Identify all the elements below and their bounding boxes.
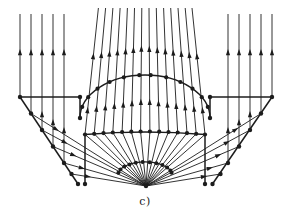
arrowhead-icon (183, 104, 188, 110)
flow-line (131, 8, 134, 132)
flow-line (104, 8, 113, 133)
arrowhead-icon (187, 52, 192, 59)
arrowhead-icon (226, 127, 230, 133)
node-dot (248, 128, 252, 132)
arrowhead-icon (123, 48, 127, 54)
arrowhead-icon (179, 50, 184, 56)
node-dot (134, 161, 138, 165)
node-dot (170, 171, 174, 175)
figure-caption-label: c) (0, 195, 290, 208)
node-dot (137, 73, 141, 77)
flow-line (85, 8, 98, 135)
node-dot (69, 172, 73, 176)
node-dot (164, 75, 168, 79)
node-dot (18, 95, 22, 99)
arrowhead-icon (139, 46, 143, 52)
node-dot (206, 105, 210, 109)
flow-line (31, 114, 146, 187)
arrowhead-icon (130, 100, 134, 106)
arrowhead-icon (94, 105, 99, 112)
arrowhead-icon (40, 49, 44, 55)
arrowhead-icon (192, 105, 197, 112)
structure-edge (20, 97, 78, 184)
arrowhead-icon (206, 165, 213, 171)
node-dot (141, 160, 145, 164)
arrowhead-icon (18, 49, 22, 55)
node-dot (203, 182, 207, 186)
node-dot (139, 129, 143, 133)
node-dot (190, 87, 194, 91)
arrowhead-icon (232, 126, 239, 133)
arrowhead-icon (51, 49, 55, 55)
node-dot (83, 182, 87, 186)
node-dot (176, 130, 180, 134)
node-dot (29, 111, 33, 115)
arrowhead-icon (62, 49, 66, 55)
flow-line (185, 8, 196, 134)
node-dot (218, 172, 222, 176)
arrowhead-icon (163, 48, 167, 54)
node-dot (208, 116, 212, 120)
node-dot (210, 182, 214, 186)
node-dot (108, 80, 112, 84)
arrowhead-icon (139, 99, 143, 105)
arrowhead-icon (121, 101, 125, 107)
arrowhead-icon (165, 101, 169, 107)
arrowhead-icon (237, 119, 241, 125)
flow-line (146, 114, 261, 187)
node-dot (111, 130, 115, 134)
node-dot (194, 132, 198, 136)
node-dot (51, 144, 55, 148)
node-dot (101, 131, 105, 135)
arrowhead-icon (248, 111, 252, 117)
node-dot (62, 161, 66, 165)
node-dot (185, 131, 189, 135)
arrowhead-icon (200, 107, 205, 114)
node-dot (120, 130, 124, 134)
arrowhead-icon (215, 152, 222, 158)
node-dot (200, 95, 204, 99)
node-dot (40, 128, 44, 132)
arrowhead-icon (171, 49, 176, 55)
node-dot (92, 132, 96, 136)
arrowhead-icon (147, 46, 151, 52)
node-dot (157, 130, 161, 134)
node-dot (148, 160, 152, 164)
node-dot (144, 184, 148, 188)
arrowhead-icon (103, 104, 108, 110)
flow-line (122, 132, 146, 186)
arrowhead-icon (226, 49, 230, 55)
node-dot (237, 144, 241, 148)
node-dot (226, 161, 230, 165)
flow-line (113, 8, 120, 133)
arrowhead-icon (99, 52, 104, 59)
flow-line (146, 134, 196, 186)
node-dot (166, 130, 170, 134)
node-dot (160, 163, 164, 167)
node-dot (154, 161, 158, 165)
arrowhead-icon (51, 119, 55, 125)
node-dot (208, 95, 212, 99)
node-dot (149, 73, 153, 77)
arrowhead-icon (195, 53, 200, 60)
node-dot (128, 162, 132, 166)
arrowhead-icon (237, 49, 241, 55)
structure-edge (213, 97, 273, 184)
node-dot (95, 87, 99, 91)
node-dot (119, 168, 123, 172)
node-dot (122, 75, 126, 79)
node-dot (178, 80, 182, 84)
curve (80, 75, 210, 118)
arrowhead-icon (70, 152, 77, 158)
flow-line (156, 8, 159, 132)
arrowhead-icon (85, 107, 90, 114)
node-dot (80, 105, 84, 109)
arrowhead-icon (174, 103, 179, 109)
node-dot (165, 166, 169, 170)
node-dot (83, 132, 87, 136)
flow-line (94, 134, 146, 186)
flow-line (192, 8, 205, 135)
arrowhead-icon (91, 53, 96, 60)
flow-line (141, 8, 142, 132)
diagram-canvas (0, 0, 290, 221)
